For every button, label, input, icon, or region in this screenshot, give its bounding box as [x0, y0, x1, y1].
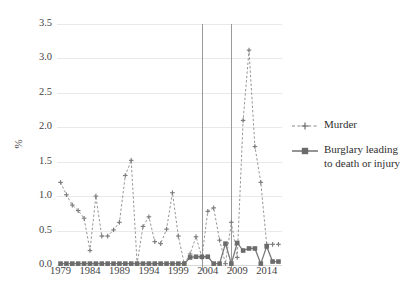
data-point-marker [147, 215, 152, 220]
data-point-marker [164, 227, 169, 232]
data-point-marker [241, 118, 246, 123]
data-point-marker [235, 255, 240, 260]
data-point-marker [223, 241, 228, 246]
data-point-marker [111, 228, 116, 233]
data-point-marker [241, 248, 246, 253]
data-point-marker [129, 158, 134, 163]
data-point-marker [264, 244, 269, 249]
data-point-marker [152, 239, 157, 244]
data-point-marker [205, 254, 210, 259]
y-axis-tick-label: 2.5 [24, 87, 52, 98]
data-point-marker [141, 224, 146, 229]
data-point-marker [64, 261, 69, 266]
data-point-marker [247, 246, 252, 251]
data-point-marker [88, 261, 93, 266]
y-axis-tick-label: 3.5 [24, 18, 52, 29]
data-point-marker [147, 261, 152, 266]
data-point-marker [259, 261, 264, 266]
series-line-burglary [61, 243, 279, 264]
data-point-marker [253, 246, 258, 251]
data-point-marker [217, 238, 222, 243]
data-point-marker [259, 180, 264, 185]
data-point-marker [94, 261, 99, 266]
data-point-marker [105, 261, 110, 266]
y-axis-tick-label: 3.0 [24, 52, 52, 63]
legend-label-burglary: Burglary leading to death or injury [324, 143, 408, 171]
legend-swatch-murder [292, 119, 318, 133]
legend-label-murder: Murder [324, 118, 357, 132]
x-axis-tick-label: 2014 [247, 266, 287, 277]
data-point-marker [211, 206, 216, 211]
data-point-marker [182, 261, 187, 266]
data-point-marker [117, 261, 122, 266]
data-point-marker [152, 261, 157, 266]
data-point-marker [164, 261, 169, 266]
legend-item-burglary: Burglary leading to death or injury [292, 143, 408, 171]
data-point-marker [123, 261, 128, 266]
data-point-marker [64, 192, 69, 197]
legend-swatch-burglary [292, 144, 318, 158]
data-point-marker [117, 220, 122, 225]
data-point-marker [99, 234, 104, 239]
data-point-marker [111, 261, 116, 266]
data-point-marker [135, 261, 140, 266]
data-point-marker [58, 261, 63, 266]
data-series-layer [57, 24, 282, 265]
data-point-marker [270, 242, 275, 247]
series-markers-burglary [58, 241, 281, 266]
data-point-marker [270, 259, 275, 264]
data-point-marker [235, 241, 240, 246]
data-point-marker [276, 242, 281, 247]
legend-item-murder: Murder [292, 118, 408, 132]
data-point-marker [123, 173, 128, 178]
series-line-murder [61, 50, 279, 263]
data-point-marker [170, 261, 175, 266]
data-point-marker [94, 194, 99, 199]
data-point-marker [217, 261, 222, 266]
data-point-marker [82, 261, 87, 266]
data-point-marker [99, 261, 104, 266]
data-point-marker [247, 48, 252, 53]
data-point-marker [194, 254, 199, 259]
data-point-marker [176, 261, 181, 266]
data-point-marker [205, 209, 210, 214]
data-point-marker [76, 261, 81, 266]
data-point-marker [129, 261, 134, 266]
data-point-marker [229, 220, 234, 225]
y-axis-tick-label: 1.5 [24, 156, 52, 167]
data-point-marker [105, 234, 110, 239]
data-point-marker [170, 190, 175, 195]
data-point-marker [188, 255, 193, 260]
data-point-marker [88, 248, 93, 253]
data-point-marker [253, 144, 258, 149]
plot-area [57, 24, 282, 265]
data-point-marker [176, 234, 181, 239]
data-point-marker [158, 261, 163, 266]
data-point-marker [211, 261, 216, 266]
data-point-marker [276, 259, 281, 264]
chart-legend: Murder Burglary leading to death or inju… [292, 118, 408, 182]
data-point-marker [70, 261, 75, 266]
data-point-marker [200, 254, 205, 259]
data-point-marker [194, 234, 199, 239]
y-axis-tick-label: 0.5 [24, 225, 52, 236]
y-axis-tick-label: 2.0 [24, 121, 52, 132]
chart-container: % 0.00.51.01.52.02.53.03.5 1979198419891… [0, 0, 408, 292]
y-axis-tick-label: 1.0 [24, 190, 52, 201]
data-point-marker [158, 241, 163, 246]
data-point-marker [141, 261, 146, 266]
y-axis-tick-labels: 0.00.51.01.52.02.53.03.5 [22, 0, 52, 292]
data-point-marker [58, 180, 63, 185]
data-point-marker [229, 261, 234, 266]
